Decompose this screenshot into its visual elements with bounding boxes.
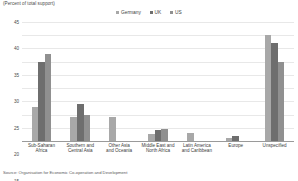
legend-swatch-icon	[116, 11, 119, 14]
legend-label: Germany	[121, 10, 141, 15]
bar[interactable]	[278, 62, 285, 141]
bar-group	[177, 22, 216, 141]
x-axis-label: Latin Americaand Caribbean	[177, 143, 216, 154]
x-axis-label-line: Europe	[217, 143, 254, 148]
legend-item-germany[interactable]: Germany	[116, 10, 141, 15]
source-note: Source: Organisation for Economic Co-ope…	[3, 170, 127, 175]
legend-swatch-icon	[170, 11, 173, 14]
bar[interactable]	[232, 136, 239, 141]
y-axis-tick-label: 15	[14, 178, 19, 181]
bar-group	[100, 22, 139, 141]
bar-group	[22, 22, 61, 141]
bar[interactable]	[155, 130, 162, 141]
y-axis-tick-label: 35	[14, 72, 19, 77]
x-axis-label: Other Asiaand Oceania	[100, 143, 139, 154]
legend-label: US	[175, 10, 182, 15]
legend-item-us[interactable]: US	[170, 10, 181, 15]
bar[interactable]	[109, 117, 116, 141]
x-axis-label: Unspecified	[255, 143, 294, 154]
bar[interactable]	[84, 115, 91, 141]
axis-unit-note: (Percent of total support)	[3, 1, 55, 6]
x-axis-label-line: and Oceania	[101, 148, 138, 153]
bar-group	[255, 22, 294, 141]
plot-area: 454035302520151050	[22, 22, 294, 141]
bar[interactable]	[70, 117, 77, 141]
bar[interactable]	[32, 107, 39, 141]
y-axis-tick-label: 25	[14, 125, 19, 130]
x-axis-label: Southern andCentral Asia	[61, 143, 100, 154]
y-axis-tick-label: 20	[14, 152, 19, 157]
bar[interactable]	[77, 104, 84, 141]
x-axis-label: Europe	[216, 143, 255, 154]
bar-groups	[22, 22, 294, 141]
bar[interactable]	[226, 138, 233, 141]
x-axis-label-line: and Caribbean	[178, 148, 215, 153]
y-axis-tick-label: 30	[14, 99, 19, 104]
bar[interactable]	[161, 129, 168, 141]
x-axis-label-line: Unspecified	[256, 143, 293, 148]
bar[interactable]	[38, 62, 45, 141]
x-axis-label-line: Central Asia	[62, 148, 99, 153]
bar-group	[216, 22, 255, 141]
x-axis-label: Middle East andNorth Africa	[139, 143, 178, 154]
bar[interactable]	[265, 35, 272, 141]
x-axis-labels: Sub-SaharanAfricaSouthern andCentral Asi…	[22, 143, 294, 154]
legend-item-uk[interactable]: UK	[150, 10, 161, 15]
x-axis-label-line: North Africa	[140, 148, 177, 153]
bar-chart: (Percent of total support) GermanyUKUS 4…	[0, 0, 298, 181]
x-axis-label-line: Africa	[23, 148, 60, 153]
legend-label: UK	[155, 10, 162, 15]
bar-group	[61, 22, 100, 141]
y-axis-tick-label: 45	[14, 20, 19, 25]
legend-swatch-icon	[150, 11, 153, 14]
bar-group	[139, 22, 178, 141]
chart-legend: GermanyUKUS	[0, 10, 298, 15]
bar[interactable]	[148, 134, 155, 141]
y-axis-tick-label: 40	[14, 46, 19, 51]
bar[interactable]	[271, 43, 278, 141]
gridline: 0	[22, 141, 294, 142]
bar[interactable]	[45, 54, 52, 141]
bar[interactable]	[187, 133, 194, 141]
x-axis-label: Sub-SaharanAfrica	[22, 143, 61, 154]
